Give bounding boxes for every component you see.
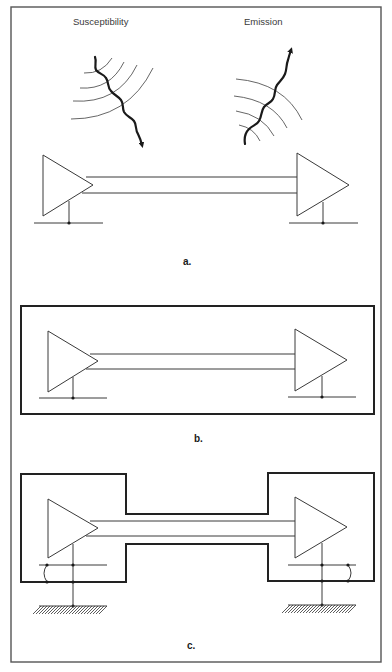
susceptibility-label: Susceptibility — [73, 16, 129, 27]
emission-icon — [234, 50, 302, 144]
panel-b-caption: b. — [194, 433, 203, 444]
ground-jumper — [346, 563, 351, 582]
receiver-amplifier — [288, 329, 356, 399]
ground-jumper — [44, 563, 49, 583]
emission-label: Emission — [244, 16, 283, 27]
panel-a: Susceptibility Emission — [34, 16, 358, 267]
susceptibility-icon — [71, 57, 153, 145]
panel-b: b. — [21, 306, 374, 444]
driver-amplifier — [39, 499, 107, 608]
driver-amplifier — [39, 331, 107, 400]
signal-cable — [82, 177, 297, 193]
panel-c: c. — [21, 473, 374, 651]
shielding-diagram: Susceptibility Emission — [0, 0, 392, 672]
driver-amplifier — [34, 155, 103, 225]
panel-c-caption: c. — [187, 640, 196, 651]
earth-ground-icon — [282, 605, 356, 613]
earth-ground-icon — [33, 606, 107, 614]
shielded-cable — [86, 521, 295, 536]
receiver-amplifier — [288, 497, 356, 607]
figure-frame — [11, 7, 381, 662]
signal-cable — [86, 354, 295, 369]
panel-a-caption: a. — [183, 256, 192, 267]
receiver-amplifier — [289, 153, 358, 225]
